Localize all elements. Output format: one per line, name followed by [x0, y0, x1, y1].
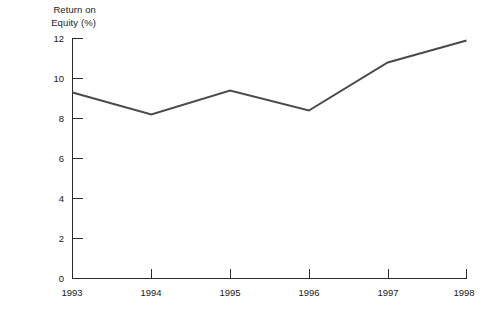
- y-tick-label-2: 2: [59, 233, 64, 244]
- x-tick-label-1998: 1998: [453, 287, 474, 298]
- x-tick-label-1993: 1993: [61, 287, 82, 298]
- x-tick-label-1995: 1995: [219, 287, 240, 298]
- y-tick-label-12: 12: [53, 33, 64, 44]
- axis-lines: [73, 38, 468, 279]
- data-series-line: [73, 41, 467, 115]
- x-tick-label-1997: 1997: [377, 287, 398, 298]
- y-axis-tick-labels: 12 10 8 6 4 2 0: [53, 33, 64, 284]
- x-tick-label-1996: 1996: [298, 287, 319, 298]
- y-axis-ticks: [73, 39, 83, 239]
- x-axis-tick-labels: 1993 1994 1995 1996 1997 1998: [61, 287, 474, 298]
- y-tick-label-10: 10: [53, 73, 64, 84]
- plot-area: 12 10 8 6 4 2 0 1993 1994 1995 1996 1997…: [0, 0, 488, 312]
- y-tick-label-8: 8: [59, 113, 64, 124]
- x-tick-label-1994: 1994: [140, 287, 161, 298]
- return-on-equity-line-chart: Return on Equity (%) 12 10 8 6 4 2 0: [0, 0, 488, 312]
- x-axis-ticks: [73, 269, 467, 279]
- y-tick-label-4: 4: [59, 193, 64, 204]
- y-tick-label-6: 6: [59, 153, 64, 164]
- y-tick-label-0: 0: [59, 273, 64, 284]
